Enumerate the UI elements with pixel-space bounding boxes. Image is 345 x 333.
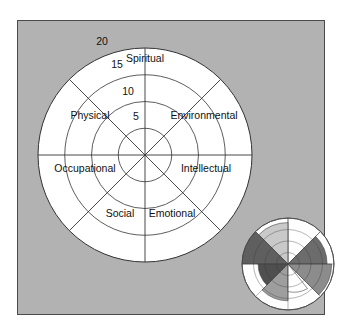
figure-panel [17, 20, 325, 315]
figure-root: Spiritual Environmental Intellectual Emo… [0, 0, 345, 333]
